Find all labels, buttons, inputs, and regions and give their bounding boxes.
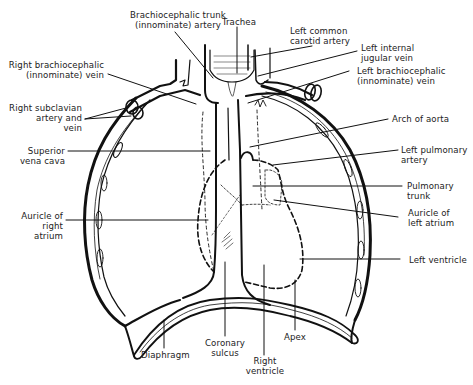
label-right-subclavian-artery-vein: Right subclavian artery and vein bbox=[2, 103, 82, 133]
label-left-brachiocephalic-vein: Left brachiocephalic (innominate) vein bbox=[357, 66, 446, 86]
label-apex: Apex bbox=[275, 332, 315, 342]
label-left-common-carotid-artery: Left common carotid artery bbox=[290, 26, 350, 46]
label-pulmonary-trunk: Pulmonary trunk bbox=[407, 181, 454, 201]
mediastinum bbox=[183, 100, 270, 305]
label-left-ventricle: Left ventricle bbox=[409, 255, 467, 265]
label-right-ventricle: Right ventricle bbox=[240, 356, 290, 376]
label-auricle-left-atrium: Auricle of left atrium bbox=[408, 208, 454, 228]
label-arch-of-aorta: Arch of aorta bbox=[392, 114, 449, 124]
label-superior-vena-cava: Superior vena cava bbox=[2, 146, 65, 166]
label-coronary-sulcus: Coronary sulcus bbox=[200, 338, 250, 358]
right-chest-wall bbox=[85, 98, 150, 326]
label-auricle-right-atrium: Auricle of right atrium bbox=[2, 211, 63, 241]
label-diaphragm: Diaphragm bbox=[141, 350, 190, 360]
label-trachea: Trachea bbox=[214, 17, 264, 27]
heart-thorax-diagram: Brachiocephalic trunk (innominate) arter… bbox=[0, 0, 473, 385]
label-right-brachiocephalic-vein: Right brachiocephalic (innominate) vein bbox=[2, 60, 104, 80]
left-chest-wall bbox=[262, 86, 370, 320]
leader-lines bbox=[66, 27, 402, 355]
label-left-pulmonary-artery: Left pulmonary artery bbox=[401, 145, 468, 165]
label-left-internal-jugular-vein: Left internal jugular vein bbox=[361, 43, 414, 63]
